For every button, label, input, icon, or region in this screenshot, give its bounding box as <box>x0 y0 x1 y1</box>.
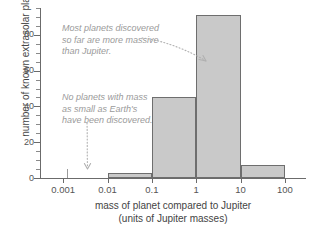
y-minor-tick <box>36 160 40 161</box>
x-tick-label-10: 10 <box>221 184 261 195</box>
y-minor-tick <box>36 80 40 81</box>
x-axis-title: mass of planet compared to Jupiter (unit… <box>40 199 306 225</box>
x-tick-label-0.001: 0.001 <box>43 184 83 195</box>
y-minor-tick <box>36 44 40 45</box>
y-minor-tick <box>36 17 40 18</box>
y-tick-0 <box>34 178 40 179</box>
y-minor-tick <box>36 97 40 98</box>
y-minor-tick <box>36 8 40 9</box>
bar-10-100 <box>241 165 285 178</box>
y-tick-label-60: 60 <box>10 66 34 75</box>
y-minor-tick <box>36 115 40 116</box>
y-minor-tick <box>36 169 40 170</box>
annotation-arrow-to-earth-mass <box>72 122 102 174</box>
x-tick-100 <box>285 179 286 183</box>
x-axis-title-main: mass of planet compared to Jupiter <box>40 199 306 212</box>
y-minor-tick <box>36 26 40 27</box>
x-axis-line <box>40 178 306 179</box>
y-tick-80 <box>34 35 40 36</box>
x-tick-label-0.1: 0.1 <box>132 184 172 195</box>
x-tick-0.001 <box>63 179 64 183</box>
y-minor-tick <box>36 62 40 63</box>
y-minor-tick <box>36 151 40 152</box>
y-tick-label-80: 80 <box>10 30 34 39</box>
y-minor-tick <box>36 89 40 90</box>
x-axis-title-units: (units of Jupiter masses) <box>40 212 306 225</box>
histogram-figure: number of known extrasolar planets 02040… <box>0 0 323 232</box>
y-tick-label-20: 20 <box>10 138 34 147</box>
bar-0.01-0.1 <box>108 173 152 178</box>
x-tick-label-1: 1 <box>176 184 216 195</box>
y-minor-tick <box>36 124 40 125</box>
annotation-arrow-to-tall-bar <box>140 30 220 70</box>
y-tick-40 <box>34 106 40 107</box>
x-tick-0.01 <box>108 179 109 183</box>
y-tick-60 <box>34 71 40 72</box>
y-minor-tick <box>36 53 40 54</box>
x-tick-1 <box>196 179 197 183</box>
y-axis-line <box>40 8 41 179</box>
x-tick-label-100: 100 <box>265 184 305 195</box>
y-tick-label-0: 0 <box>10 174 34 183</box>
y-tick-20 <box>34 142 40 143</box>
y-minor-tick <box>36 133 40 134</box>
earth-mass-marker-tick <box>67 169 68 178</box>
y-tick-label-40: 40 <box>10 102 34 111</box>
x-tick-0.1 <box>152 179 153 183</box>
x-tick-label-0.01: 0.01 <box>88 184 128 195</box>
x-tick-10 <box>241 179 242 183</box>
